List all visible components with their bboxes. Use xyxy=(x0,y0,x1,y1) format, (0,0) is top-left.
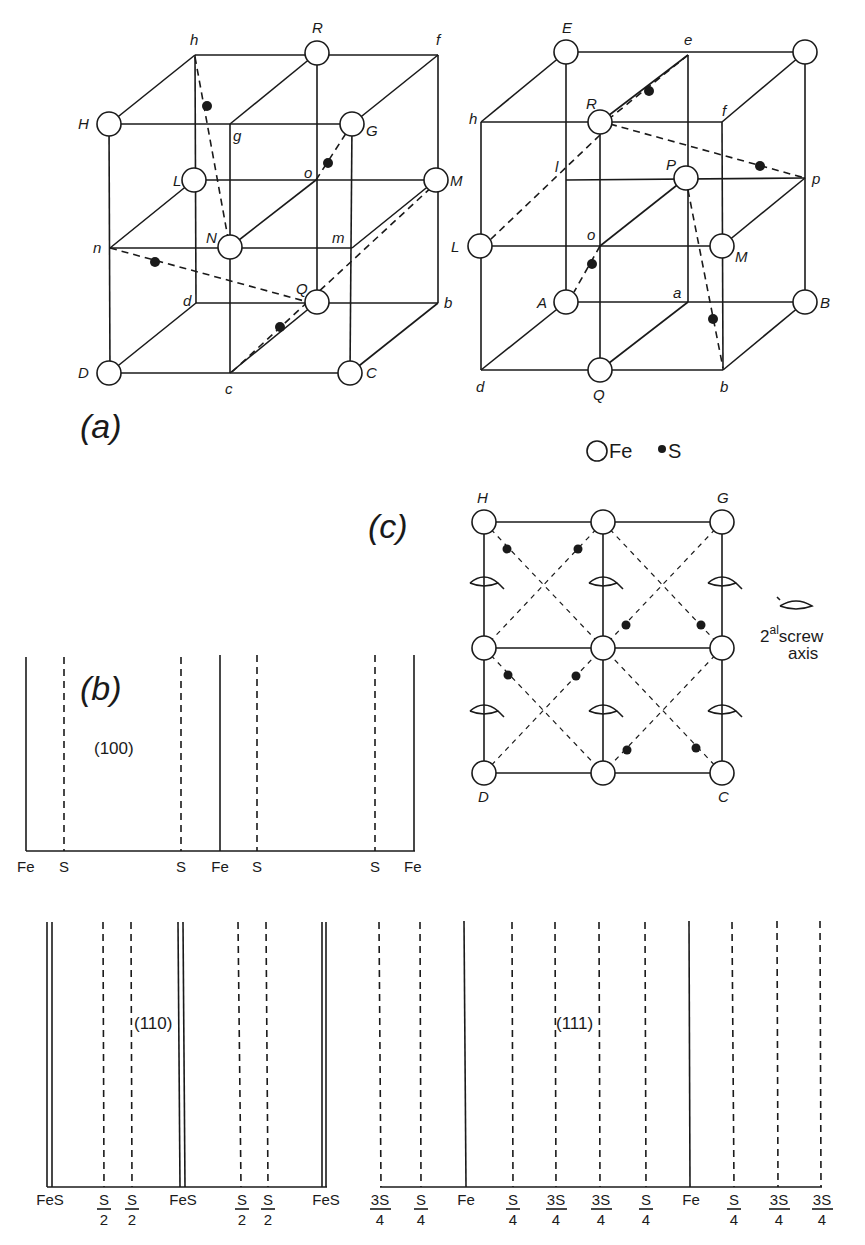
fe-legend-icon xyxy=(587,441,607,461)
tick-label: 4 xyxy=(730,1211,738,1228)
screw-legend-text: 2alscrew xyxy=(760,623,824,646)
screw-legend-axis: axis xyxy=(788,644,818,663)
panel-a-label: (a) xyxy=(80,407,122,445)
tick-label: S xyxy=(252,858,262,875)
label-o-right: o xyxy=(587,226,595,243)
pyrite-structure-figure: h R f H g G L o M n N m d Q b D c C (a) xyxy=(0,0,865,1245)
label-P: P xyxy=(666,156,676,173)
panel-b-label: (b) xyxy=(80,669,122,707)
label-L: L xyxy=(173,172,181,189)
tick-label: FeS xyxy=(312,1191,340,1208)
tick-label: Fe xyxy=(17,858,35,875)
label-A: A xyxy=(536,294,547,311)
label-h: h xyxy=(190,31,198,48)
tick-label: S xyxy=(237,1191,247,1208)
tick-label: Fe xyxy=(682,1191,700,1208)
label-B: B xyxy=(820,294,830,311)
label-d-right: d xyxy=(476,378,485,395)
label-p: p xyxy=(811,170,820,187)
tick-label: 3S xyxy=(592,1191,610,1208)
label-m: m xyxy=(332,229,345,246)
panel-c-label: (c) xyxy=(368,507,408,545)
label-d: d xyxy=(183,292,192,309)
tick-label: S xyxy=(370,858,380,875)
tick-label: 4 xyxy=(509,1211,517,1228)
label-o: o xyxy=(304,164,312,181)
plane-100-title: (100) xyxy=(94,739,134,758)
label-b: b xyxy=(444,294,452,311)
tick-label: 4 xyxy=(417,1211,425,1228)
tick-label: S xyxy=(729,1191,739,1208)
label-N: N xyxy=(206,229,217,246)
plane-110: (110) FeS S 2 S 2 FeS S 2 S 2 FeS xyxy=(36,922,340,1228)
label-H: H xyxy=(78,115,89,132)
label-M: M xyxy=(450,172,463,189)
tick-label: 4 xyxy=(642,1211,650,1228)
legend: Fe S xyxy=(587,440,681,462)
plane-110-ticks: FeS S 2 S 2 FeS S 2 S 2 FeS xyxy=(36,1191,340,1228)
tick-label: 4 xyxy=(597,1211,605,1228)
tick-label: 2 xyxy=(100,1211,108,1228)
tick-label: S xyxy=(641,1191,651,1208)
left-cube: h R f H g G L o M n N m d Q b D c C xyxy=(78,19,463,397)
legend-s-label: S xyxy=(668,440,681,462)
tick-label: 3S xyxy=(547,1191,565,1208)
tick-label: FeS xyxy=(169,1191,197,1208)
label-f: f xyxy=(436,31,442,48)
tick-label: S xyxy=(176,858,186,875)
right-cube: E e h R f l P p L o M A a B d Q b xyxy=(451,19,830,403)
screw-axis-legend-icon xyxy=(777,597,812,609)
label-c-H: H xyxy=(477,489,488,506)
s-legend-icon xyxy=(658,445,666,453)
label-c-G: G xyxy=(717,489,729,506)
tick-label: S xyxy=(508,1191,518,1208)
tick-label: 2 xyxy=(264,1211,272,1228)
tick-label: 2 xyxy=(238,1211,246,1228)
label-E: E xyxy=(562,19,573,36)
label-b-right: b xyxy=(720,378,728,395)
label-h-right: h xyxy=(469,110,477,127)
label-D: D xyxy=(78,364,89,381)
tick-label: 4 xyxy=(376,1211,384,1228)
plane-111-ticks: 3S 4 S 4 Fe S 4 3S 4 3S 4 S 4 Fe S 4 3S xyxy=(370,1191,833,1228)
plane-110-title: (110) xyxy=(134,1014,172,1033)
tick-label: 4 xyxy=(818,1211,826,1228)
tick-label: S xyxy=(99,1191,109,1208)
label-C: C xyxy=(366,364,377,381)
label-e: e xyxy=(684,31,692,48)
tick-label: Fe xyxy=(457,1191,475,1208)
label-L-right: L xyxy=(451,238,459,255)
label-g: g xyxy=(233,127,242,144)
label-Q-right: Q xyxy=(593,386,605,403)
label-f-right: f xyxy=(722,102,728,119)
tick-label: FeS xyxy=(36,1191,64,1208)
label-c-D: D xyxy=(478,788,489,805)
label-c: c xyxy=(225,380,233,397)
tick-label: 3S xyxy=(813,1191,831,1208)
label-n: n xyxy=(93,239,101,256)
tick-label: S xyxy=(127,1191,137,1208)
label-G: G xyxy=(366,122,378,139)
tick-label: 3S xyxy=(770,1191,788,1208)
legend-fe-label: Fe xyxy=(609,440,632,462)
label-R: R xyxy=(312,19,323,36)
plane-111-title: (111) xyxy=(556,1014,593,1033)
tick-label: Fe xyxy=(404,858,422,875)
panel-c-projection: (c) xyxy=(368,489,824,805)
tick-label: 2 xyxy=(128,1211,136,1228)
plane-111: (111) 3S 4 S 4 Fe S 4 3S 4 3S 4 S 4 Fe S xyxy=(370,921,833,1228)
label-M-right: M xyxy=(735,248,748,265)
tick-label: 4 xyxy=(552,1211,560,1228)
plane-100: (b) (100) Fe S S Fe S S Fe xyxy=(17,655,422,875)
label-R-right: R xyxy=(586,95,597,112)
label-l: l xyxy=(555,158,559,175)
label-c-C: C xyxy=(718,788,729,805)
tick-label: S xyxy=(416,1191,426,1208)
label-Q: Q xyxy=(296,280,308,297)
tick-label: 3S xyxy=(371,1191,389,1208)
tick-label: S xyxy=(263,1191,273,1208)
tick-label: S xyxy=(59,858,69,875)
tick-label: 4 xyxy=(775,1211,783,1228)
tick-label: Fe xyxy=(211,858,229,875)
label-a: a xyxy=(673,284,681,301)
